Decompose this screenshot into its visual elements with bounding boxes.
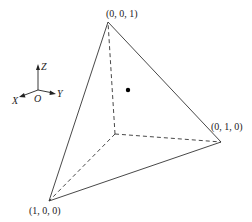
edge-origin-to-y [115,134,221,142]
hidden-edges [49,22,221,201]
vertex-label-x: (1, 0, 0) [29,205,61,217]
interior-point [126,88,130,92]
tetrahedron-diagram: (0, 0, 1) (0, 1, 0) (1, 0, 0) Z Y O X [0,0,252,222]
edge-origin-to-z [108,22,115,134]
edge-z-to-y [108,22,221,142]
x-arrow-icon [19,93,26,98]
edge-origin-to-x [49,134,115,201]
axis-label-x: X [11,95,19,106]
vertex-label-y: (0, 1, 0) [211,121,243,133]
edge-x-to-y [49,142,221,201]
axis-label-y: Y [57,88,64,99]
axis-label-z: Z [41,61,47,72]
y-arrow-icon [50,91,57,96]
z-arrow-icon [36,64,40,70]
edge-z-to-x [49,22,108,201]
vertex-label-z: (0, 0, 1) [106,8,138,20]
solid-edges [49,22,221,201]
axis-label-origin: O [34,93,41,104]
